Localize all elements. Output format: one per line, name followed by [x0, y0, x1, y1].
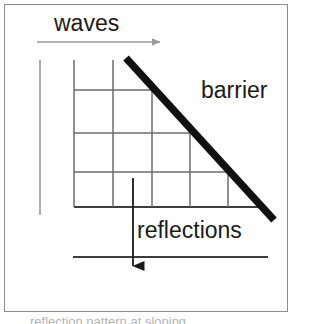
wave-reflection-diagram: waves barrier reflections reflection pat… [0, 0, 310, 324]
barrier-label: barrier [201, 79, 267, 102]
clipped-caption-text: reflection pattern at sloping [30, 315, 280, 324]
reflections-label: reflections [137, 219, 242, 242]
waves-label: waves [54, 12, 119, 35]
diagram-canvas [0, 0, 310, 324]
